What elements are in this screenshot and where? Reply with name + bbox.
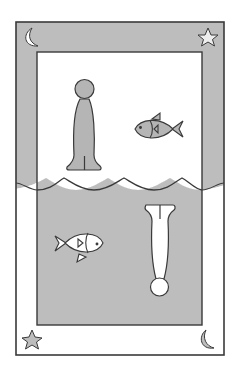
illustration-canvas <box>0 0 242 380</box>
fish-eye <box>96 243 98 245</box>
figure-head <box>151 278 169 296</box>
fish-eye <box>140 127 142 129</box>
figure-head <box>75 80 94 99</box>
